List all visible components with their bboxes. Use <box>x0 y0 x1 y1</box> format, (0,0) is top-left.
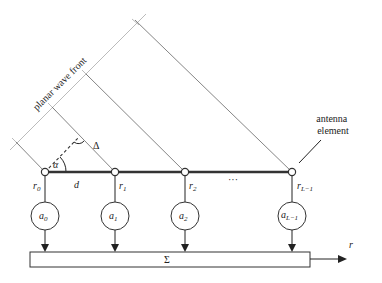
antenna-branch-r1: r1 a1 <box>101 168 129 252</box>
pos-label-rL-1: rL−1 <box>297 180 313 193</box>
output-label: r <box>349 239 353 250</box>
antenna-branch-r0: r0 a0 <box>31 168 59 252</box>
arrow-head <box>41 244 49 252</box>
antenna-node-r0 <box>41 168 48 175</box>
antenna-element-label: antenna element <box>316 113 350 136</box>
antenna-node-rL-1 <box>288 168 295 175</box>
ray-rL-1 <box>135 20 292 172</box>
antenna-leader-line <box>299 140 321 163</box>
antenna-array-diagram: planar wave front α Δ d ··· antenna elem… <box>0 0 382 283</box>
antenna-node-r2 <box>181 168 188 175</box>
right-angle-marker <box>74 141 84 144</box>
antenna-node-r1 <box>111 168 118 175</box>
antenna-branch-r2: r2 a2 <box>171 168 199 252</box>
pos-label-r2: r2 <box>189 180 197 193</box>
ellipsis-label: ··· <box>228 174 238 185</box>
ray-r0 <box>16 142 45 172</box>
arrow-head <box>111 244 119 252</box>
summation-box <box>30 252 310 267</box>
delta-label: Δ <box>93 140 100 151</box>
spacing-label: d <box>74 179 80 190</box>
alpha-arc <box>60 157 66 172</box>
ray-r1 <box>52 107 115 172</box>
pos-label-r1: r1 <box>119 180 126 193</box>
antenna-branch-rL-1: rL−1 aL−1 <box>278 168 313 252</box>
wavefront-line <box>10 14 146 150</box>
alpha-label: α <box>53 159 59 170</box>
pos-label-r0: r0 <box>33 180 41 193</box>
arrow-head <box>288 244 296 252</box>
sum-symbol: Σ <box>164 254 170 265</box>
output-arrow-head <box>338 255 347 263</box>
wavefront-label: planar wave front <box>31 55 89 113</box>
arrow-head <box>181 244 189 252</box>
